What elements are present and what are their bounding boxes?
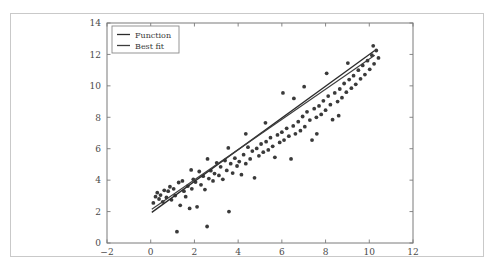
data-point — [305, 110, 309, 114]
data-point — [175, 230, 179, 234]
data-point — [294, 132, 298, 136]
y-tick-label-14: 14 — [90, 18, 102, 28]
data-point — [321, 99, 325, 103]
data-point — [231, 171, 235, 175]
data-point — [278, 141, 282, 145]
scatter-points — [151, 44, 380, 234]
data-point — [261, 150, 265, 154]
line-function — [152, 51, 375, 213]
data-point — [331, 118, 335, 122]
data-point — [159, 193, 163, 197]
data-point — [190, 187, 194, 191]
data-point — [372, 62, 376, 66]
data-point — [338, 87, 342, 91]
data-point — [162, 188, 166, 192]
data-point — [302, 85, 306, 89]
data-point — [344, 90, 348, 94]
data-point — [178, 203, 182, 207]
data-point — [354, 82, 358, 86]
data-point — [264, 121, 268, 125]
data-point — [203, 188, 207, 192]
data-point — [255, 147, 259, 151]
data-point — [282, 138, 286, 142]
data-point — [363, 73, 367, 77]
y-tick-label-12: 12 — [90, 50, 101, 60]
data-point — [172, 187, 176, 191]
data-point — [289, 157, 293, 161]
data-point — [155, 191, 159, 195]
y-tick-label-6: 6 — [95, 144, 101, 154]
data-point — [229, 162, 233, 166]
x-tick-label-6: 6 — [279, 247, 285, 257]
legend: FunctionBest fit — [112, 26, 179, 53]
data-point — [219, 165, 223, 169]
data-point — [206, 157, 210, 161]
data-point — [188, 207, 192, 211]
data-point — [280, 130, 284, 134]
data-point — [264, 140, 268, 144]
data-point — [301, 115, 305, 119]
data-point — [333, 91, 337, 95]
data-point — [326, 94, 330, 98]
data-point — [199, 183, 203, 187]
data-point — [166, 189, 170, 193]
y-tick-label-8: 8 — [95, 113, 101, 123]
data-point — [352, 74, 356, 78]
data-point — [349, 86, 353, 90]
data-point — [336, 100, 340, 104]
y-tick-label-4: 4 — [95, 175, 101, 185]
data-point — [292, 97, 296, 101]
y-tick-label-0: 0 — [95, 238, 101, 248]
data-point — [368, 67, 372, 71]
data-point — [237, 160, 241, 164]
data-point — [319, 113, 323, 117]
data-point — [253, 176, 257, 180]
legend-label-1: Best fit — [135, 42, 165, 51]
data-point — [225, 169, 229, 173]
figure-canvas: −202468101202468101214FunctionBest fit — [10, 13, 484, 257]
data-point — [242, 153, 246, 157]
data-point — [287, 134, 291, 138]
data-point — [244, 132, 248, 136]
data-point — [271, 144, 275, 148]
data-point — [347, 78, 351, 82]
data-point — [250, 149, 254, 153]
data-point — [314, 115, 318, 119]
data-point — [205, 225, 209, 229]
chart-page: −202468101202468101214FunctionBest fit — [0, 0, 495, 268]
y-tick-label-2: 2 — [95, 207, 101, 217]
line-best-fit — [152, 55, 375, 209]
data-point — [281, 91, 285, 95]
data-point — [291, 124, 295, 128]
data-point — [154, 195, 158, 199]
data-point — [213, 172, 217, 176]
data-point — [151, 201, 155, 205]
data-point — [177, 181, 181, 185]
data-point — [340, 96, 344, 100]
x-tick-label-0: 0 — [148, 247, 154, 257]
data-point — [195, 205, 199, 209]
data-point — [233, 156, 237, 160]
data-point — [377, 56, 381, 60]
data-point — [312, 107, 316, 111]
data-point — [296, 120, 300, 124]
data-point — [266, 148, 270, 152]
data-point — [374, 49, 378, 53]
x-tick-label--2: −2 — [100, 247, 113, 257]
x-tick-label-12: 12 — [407, 247, 418, 257]
data-point — [246, 145, 250, 149]
data-point — [328, 103, 332, 107]
data-point — [324, 108, 328, 112]
x-tick-label-2: 2 — [192, 247, 198, 257]
data-point — [259, 142, 263, 146]
data-point — [226, 146, 230, 150]
data-point — [325, 71, 329, 75]
data-point — [235, 164, 239, 168]
data-point — [221, 177, 225, 181]
data-point — [273, 155, 277, 159]
data-point — [276, 133, 280, 137]
data-point — [227, 210, 231, 214]
data-point — [207, 177, 211, 181]
data-point — [317, 104, 321, 108]
data-point — [299, 129, 303, 133]
